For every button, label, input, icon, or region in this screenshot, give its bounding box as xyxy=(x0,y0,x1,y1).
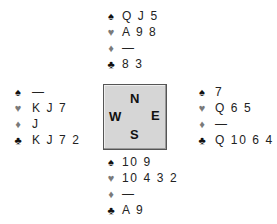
compass-box: N W E S xyxy=(103,84,167,150)
south-clubs: A 9 xyxy=(122,202,144,218)
club-icon: ♣ xyxy=(105,56,117,72)
diamond-icon: ♦ xyxy=(12,116,24,132)
spade-icon: ♠ xyxy=(105,154,117,170)
heart-icon: ♥ xyxy=(196,100,208,116)
north-spades: Q J 5 xyxy=(122,8,159,24)
diamond-icon: ♦ xyxy=(196,116,208,132)
compass-east: E xyxy=(151,108,160,123)
diamond-icon: ♦ xyxy=(105,40,117,56)
west-spades: — xyxy=(32,84,46,100)
club-icon: ♣ xyxy=(12,132,24,148)
club-icon: ♣ xyxy=(196,132,208,148)
spade-icon: ♠ xyxy=(12,84,24,100)
compass-south: S xyxy=(130,127,139,142)
north-clubs: 8 3 xyxy=(122,56,143,72)
compass-north: N xyxy=(130,91,139,106)
west-hearts: K J 7 xyxy=(32,100,67,116)
heart-icon: ♥ xyxy=(12,100,24,116)
heart-icon: ♥ xyxy=(105,170,117,186)
east-diamonds: — xyxy=(215,116,229,132)
spade-icon: ♠ xyxy=(196,84,208,100)
heart-icon: ♥ xyxy=(105,24,117,40)
north-hearts: A 9 8 xyxy=(122,24,157,40)
club-icon: ♣ xyxy=(105,202,117,218)
west-clubs: K J 7 2 xyxy=(32,132,81,148)
diamond-icon: ♦ xyxy=(105,186,117,202)
north-diamonds: — xyxy=(122,40,136,56)
south-hearts: 10 4 3 2 xyxy=(122,170,178,186)
west-diamonds: J xyxy=(32,116,40,132)
spade-icon: ♠ xyxy=(105,8,117,24)
east-hearts: Q 6 5 xyxy=(215,100,252,116)
south-diamonds: — xyxy=(122,186,136,202)
compass-west: W xyxy=(109,109,121,124)
east-clubs: Q 10 6 4 xyxy=(215,132,274,148)
south-spades: 10 9 xyxy=(122,154,152,170)
east-spades: 7 xyxy=(215,84,223,100)
